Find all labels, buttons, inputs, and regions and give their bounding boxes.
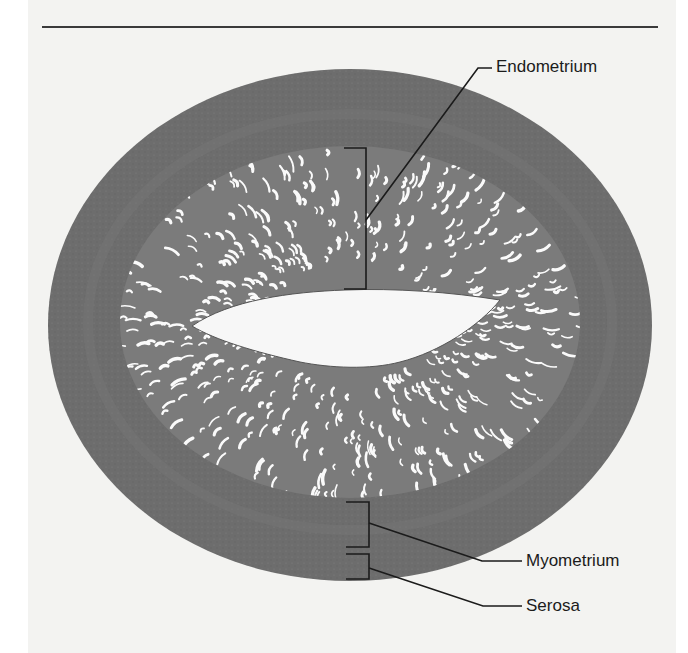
label-serosa: Serosa: [526, 596, 580, 616]
label-myometrium: Myometrium: [526, 551, 620, 571]
label-endometrium: Endometrium: [496, 57, 597, 77]
